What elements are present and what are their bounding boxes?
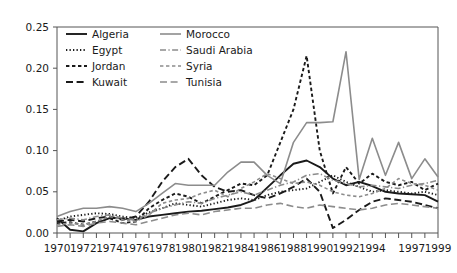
- legend-item-morocco: Morocco: [160, 28, 230, 40]
- legend-label: Jordan: [91, 60, 125, 72]
- legend-item-egypt: Egypt: [66, 44, 122, 56]
- x-tick-label: 1999: [425, 242, 452, 254]
- x-axis: 1970197219741976197819801982198419861988…: [44, 233, 452, 254]
- line-chart: 0.000.050.100.150.200.25 197019721974197…: [0, 0, 457, 273]
- x-tick-label: 1982: [201, 242, 228, 254]
- x-tick-label: 1984: [228, 242, 255, 254]
- x-tick-label: 1980: [175, 242, 202, 254]
- legend-label: Saudi Arabia: [186, 44, 253, 56]
- legend-label: Tunisia: [185, 76, 222, 88]
- x-tick-label: 1988: [280, 242, 307, 254]
- legend-label: Morocco: [186, 28, 230, 40]
- x-tick-label: 1997: [398, 242, 425, 254]
- chart-canvas: 0.000.050.100.150.200.25 197019721974197…: [0, 0, 457, 273]
- x-tick-label: 1970: [44, 242, 71, 254]
- series-line-egypt: [57, 175, 438, 220]
- x-tick-label: 1976: [122, 242, 149, 254]
- y-tick-label: 0.00: [26, 227, 49, 239]
- series-line-algeria: [57, 160, 438, 231]
- x-tick-label: 1992: [333, 242, 360, 254]
- legend-item-algeria: Algeria: [66, 28, 129, 40]
- y-tick-label: 0.15: [26, 103, 49, 115]
- x-tick-label: 1990: [306, 242, 333, 254]
- legend-label: Algeria: [92, 28, 129, 40]
- y-tick-label: 0.25: [26, 21, 49, 33]
- legend-label: Egypt: [92, 44, 122, 56]
- y-tick-label: 0.05: [26, 185, 49, 197]
- legend-item-syria: Syria: [160, 60, 213, 72]
- legend-item-tunisia: Tunisia: [160, 76, 222, 88]
- y-tick-label: 0.10: [26, 144, 49, 156]
- series-line-saudi-arabia: [57, 174, 438, 220]
- legend-label: Kuwait: [92, 76, 127, 88]
- legend-item-kuwait: Kuwait: [66, 76, 127, 88]
- legend-item-jordan: Jordan: [66, 60, 125, 72]
- x-tick-label: 1972: [70, 242, 97, 254]
- legend-item-saudi-arabia: Saudi Arabia: [160, 44, 253, 56]
- x-tick-label: 1978: [149, 242, 176, 254]
- x-tick-label: 1994: [359, 242, 386, 254]
- chart-legend: AlgeriaEgyptJordanKuwaitMoroccoSaudi Ara…: [66, 28, 253, 88]
- x-tick-label: 1974: [96, 242, 123, 254]
- legend-label: Syria: [186, 60, 213, 72]
- x-tick-label: 1986: [254, 242, 281, 254]
- y-tick-label: 0.20: [26, 62, 49, 74]
